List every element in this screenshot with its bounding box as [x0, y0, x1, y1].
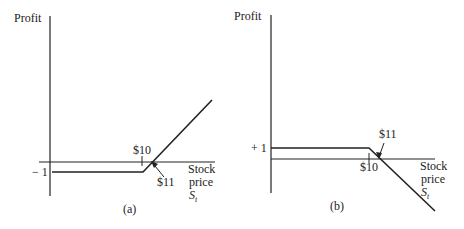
panel-a-y-tick-label: − 1 [32, 166, 48, 179]
panel-a-y-axis-label: Profit [14, 12, 41, 25]
panel-b-profit-line [271, 148, 435, 211]
panel-b-caption: (b) [330, 200, 344, 213]
panel-b-axes [271, 15, 435, 193]
panel-b-y-tick-label: + 1 [251, 142, 267, 155]
panel-b-breakeven-label: $11 [379, 128, 397, 141]
payoff-diagrams [0, 0, 464, 229]
panel-a-breakeven-label: $11 [157, 176, 175, 189]
panel-b-y-axis-label: Profit [234, 10, 261, 23]
panel-a-x-sub: t [195, 195, 197, 204]
panel-a-strike-label: $10 [133, 144, 151, 157]
panel-a-x-axis-variable: St [189, 189, 197, 206]
panel-b-x-sub: t [427, 192, 429, 201]
panel-b-x-axis-variable: St [421, 186, 429, 203]
panel-b-strike-label: $10 [360, 161, 378, 174]
panel-a-caption: (a) [123, 203, 136, 216]
